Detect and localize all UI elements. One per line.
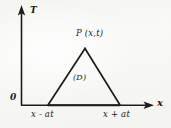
region-label: (D) — [73, 74, 86, 82]
horizontal-axis-label: x — [157, 98, 163, 108]
left-base-tick-label: x - at — [31, 110, 54, 119]
origin-label: 0 — [10, 93, 16, 102]
vertical-axis-label: T — [30, 6, 37, 15]
figure-container: T x 0 P (x,t) (D) x - at x + at — [0, 0, 171, 128]
diagram-canvas — [0, 0, 171, 128]
right-base-tick-label: x + at — [103, 110, 130, 119]
right-characteristic-line — [85, 49, 120, 106]
apex-point-label: P (x,t) — [76, 29, 103, 38]
apex-point-marker — [84, 48, 86, 50]
